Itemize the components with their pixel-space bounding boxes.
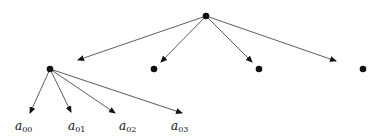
nodes <box>47 13 367 73</box>
node-c1 <box>151 66 158 73</box>
node-root <box>203 13 210 20</box>
edge-root-c2 <box>206 16 252 62</box>
edge-c0-a00 <box>30 69 50 113</box>
edge-root-c1 <box>161 16 206 62</box>
node-c2 <box>256 66 263 73</box>
node-c0 <box>47 66 54 73</box>
child-edges <box>30 69 182 113</box>
edge-c0-a01 <box>50 69 71 112</box>
root-edges <box>78 16 336 62</box>
leaf-label-a00: a00 <box>15 119 32 134</box>
tree-diagram: a00 a01 a02 a03 <box>0 0 383 139</box>
edge-root-c3 <box>206 16 336 61</box>
leaf-label-a01: a01 <box>68 119 85 134</box>
leaf-label-a03: a03 <box>171 119 188 134</box>
edge-c0-a02 <box>50 69 115 113</box>
node-c3 <box>360 66 367 73</box>
edge-root-c0 <box>78 16 206 60</box>
edge-c0-a03 <box>50 69 182 113</box>
leaf-label-a02: a02 <box>119 119 136 134</box>
leaf-labels: a00 a01 a02 a03 <box>15 119 188 134</box>
